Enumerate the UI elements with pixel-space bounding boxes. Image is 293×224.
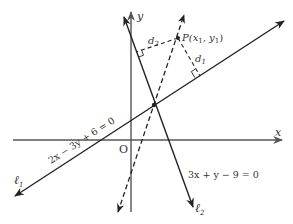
l1-label: ℓ1 (14, 173, 23, 189)
origin-label: O (119, 143, 128, 156)
point-p-label: P(x1, y1) (181, 32, 223, 45)
diagram-canvas: y x O P(x1, y1) d2 d1 ℓ1 ℓ2 2x − 3y + 6 … (0, 0, 293, 224)
right-angle-marker-d1 (191, 69, 195, 78)
x-axis-label: x (275, 126, 282, 139)
y-axis-label: y (136, 10, 144, 23)
d2-label: d2 (148, 35, 159, 48)
l2-label: ℓ2 (195, 201, 205, 217)
intersection-point (152, 103, 156, 107)
point-p (176, 36, 180, 40)
right-angle-marker-d2 (139, 50, 144, 57)
d1-label: d1 (195, 53, 206, 66)
l2-equation-label: 3x + y − 9 = 0 (188, 169, 259, 180)
